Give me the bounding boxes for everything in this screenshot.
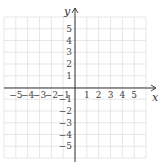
y-tick-label: 4 [66,36,72,46]
x-tick-label: 1 [84,90,90,100]
y-tick-label: 1 [66,71,72,81]
y-tick-label: −5 [59,141,73,151]
y-tick-label: −4 [59,130,73,140]
x-tick-label: 3 [108,90,114,100]
x-axis-label: x [152,91,159,104]
x-tick-label: 4 [119,90,125,100]
y-tick-label: 2 [66,59,72,69]
y-tick-label: −3 [59,118,73,128]
y-tick-label: −2 [59,106,72,116]
axes [4,8,156,162]
coordinate-plane: x y −5−4−3−2−112345 54321−1−2−3−4−5 [0,0,164,168]
x-tick-labels: −5−4−3−2−112345 [9,90,137,100]
y-axis-label: y [63,5,71,18]
x-tick-label: 5 [131,90,137,100]
y-tick-label: −1 [59,94,72,104]
x-tick-label: 2 [96,90,102,100]
y-tick-label: 3 [66,47,72,57]
y-tick-label: 5 [66,24,72,34]
